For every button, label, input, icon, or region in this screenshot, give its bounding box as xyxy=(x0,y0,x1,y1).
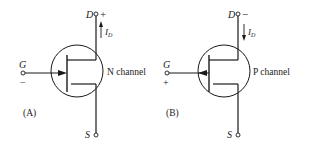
gate-arrow-icon xyxy=(58,70,67,76)
gate-label: G xyxy=(19,59,26,70)
drain-label: D xyxy=(85,9,94,20)
panel-caption: (B) xyxy=(166,108,179,119)
source-label: S xyxy=(227,129,232,140)
panel-a-n-channel: D + ID G − N channel (A) S xyxy=(19,8,146,140)
gate-terminal xyxy=(21,71,25,75)
channel-type-label: P channel xyxy=(253,67,290,77)
drain-terminal xyxy=(94,12,98,16)
drain-label: D xyxy=(227,9,236,20)
source-terminal xyxy=(236,133,240,137)
channel-type-label: N channel xyxy=(107,67,146,77)
current-label: ID xyxy=(247,27,256,38)
drain-terminal xyxy=(236,12,240,16)
source-label: S xyxy=(85,129,90,140)
current-arrow-up-icon xyxy=(99,21,103,27)
current-label: ID xyxy=(104,27,113,38)
panel-b-p-channel: D − ID G + P channel (B) S xyxy=(163,8,290,140)
jfet-diagram: D + ID G − N channel (A) S D − xyxy=(0,0,312,148)
gate-polarity: + xyxy=(163,77,169,88)
gate-arrow-icon xyxy=(198,70,207,76)
drain-polarity: − xyxy=(242,8,248,20)
gate-polarity: − xyxy=(20,77,26,88)
panel-caption: (A) xyxy=(23,108,36,119)
current-arrow-down-icon xyxy=(242,35,246,41)
drain-polarity: + xyxy=(100,8,106,20)
gate-label: G xyxy=(163,59,170,70)
gate-terminal xyxy=(165,71,169,75)
source-terminal xyxy=(94,133,98,137)
